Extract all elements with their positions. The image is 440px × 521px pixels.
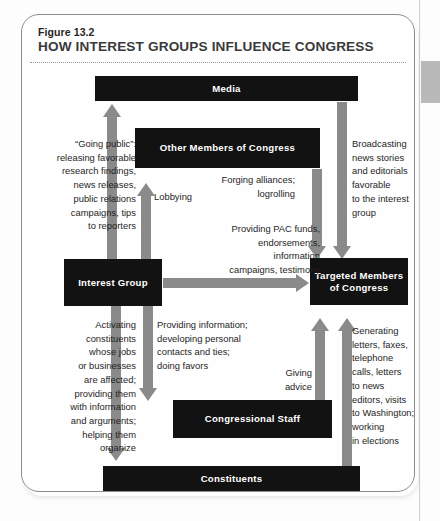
caption-generating-letters: Generating letters, faxes, telephone cal… xyxy=(352,324,436,447)
caption-broadcasting: Broadcasting news stories and editorials… xyxy=(352,137,434,219)
page-title: HOW INTEREST GROUPS INFLUENCE CONGRESS xyxy=(38,39,374,54)
figure-number: Figure 13.2 xyxy=(38,26,95,38)
caption-activating-constituents: Activating constituents whose jobs or bu… xyxy=(24,318,136,455)
caption-going-public: “Going public”: releasing favorable rese… xyxy=(24,137,136,233)
node-media[interactable]: Media xyxy=(95,76,358,101)
header-divider xyxy=(30,62,406,63)
node-congressional-staff[interactable]: Congressional Staff xyxy=(173,400,332,438)
node-interest-group[interactable]: Interest Group xyxy=(64,259,162,306)
caption-forging-alliances: Forging alliances; logrolling xyxy=(196,173,295,200)
node-constituents[interactable]: Constituents xyxy=(103,466,360,491)
page-thumb-tab xyxy=(421,61,440,103)
caption-giving-advice: Giving advice xyxy=(256,366,312,393)
node-targeted-members-of-congress[interactable]: Targeted Members of Congress xyxy=(310,258,408,305)
caption-providing-information: Providing information; developing person… xyxy=(157,318,289,373)
node-other-members-of-congress[interactable]: Other Members of Congress xyxy=(135,128,320,168)
caption-pac-funds: Providing PAC funds, endorsements, infor… xyxy=(174,222,320,277)
